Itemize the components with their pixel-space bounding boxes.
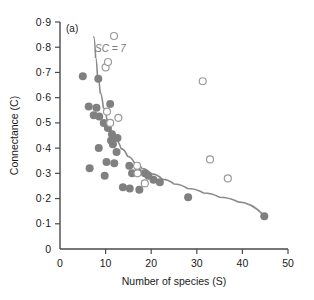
data-point-filled — [103, 158, 111, 166]
data-point-open — [107, 119, 114, 126]
data-point-open — [115, 114, 122, 121]
y-tick-label: 0·9 — [36, 16, 51, 28]
data-point-filled — [113, 134, 121, 142]
connectance-scatter-plot: 0102030405000·10·20·30·40·50·60·70·80·9N… — [0, 0, 314, 300]
data-point-open — [103, 108, 110, 115]
data-point-filled — [94, 75, 102, 83]
x-tick-label: 50 — [282, 257, 294, 269]
y-tick-label: 0·3 — [36, 167, 51, 179]
data-point-filled — [135, 186, 143, 194]
data-point-filled — [126, 184, 134, 192]
y-tick-label: 0·1 — [36, 217, 51, 229]
y-tick-label: 0·6 — [36, 91, 51, 103]
chart-container: 0102030405000·10·20·30·40·50·60·70·80·9N… — [0, 0, 314, 300]
data-point-open — [207, 156, 214, 163]
data-point-filled — [101, 172, 109, 180]
data-point-filled — [85, 102, 93, 110]
data-point-open — [224, 175, 231, 182]
data-point-open — [134, 162, 141, 169]
annotation-marker-icon — [111, 33, 118, 40]
x-tick-label: 20 — [145, 257, 157, 269]
data-point-filled — [184, 193, 192, 201]
data-point-filled — [110, 159, 118, 167]
data-point-filled — [119, 183, 127, 191]
data-point-filled — [260, 212, 268, 220]
y-tick-label: 0 — [45, 243, 51, 255]
data-point-open — [199, 78, 206, 85]
data-point-filled — [156, 178, 164, 186]
data-point-filled — [106, 100, 114, 108]
data-point-filled — [125, 162, 133, 170]
data-point-open — [134, 170, 141, 177]
y-axis-title: Connectance (C) — [8, 96, 20, 175]
data-point-filled — [92, 104, 100, 112]
y-tick-label: 0·2 — [36, 192, 51, 204]
annotation-marker-icon — [105, 59, 112, 66]
sc-annotation-label: SC = 7 — [95, 43, 126, 54]
y-tick-label: 0·8 — [36, 41, 51, 53]
y-tick-label: 0·4 — [36, 142, 51, 154]
data-point-filled — [95, 144, 103, 152]
x-axis-title: Number of species (S) — [122, 275, 226, 287]
data-point-filled — [113, 148, 121, 156]
data-point-filled — [79, 72, 87, 80]
data-point-open — [141, 180, 148, 187]
x-tick-label: 0 — [57, 257, 63, 269]
x-tick-label: 10 — [100, 257, 112, 269]
y-tick-label: 0·7 — [36, 66, 51, 78]
x-tick-label: 40 — [237, 257, 249, 269]
panel-label: (a) — [66, 23, 78, 34]
x-tick-label: 30 — [191, 257, 203, 269]
data-point-filled — [86, 164, 94, 172]
y-tick-label: 0·5 — [36, 116, 51, 128]
